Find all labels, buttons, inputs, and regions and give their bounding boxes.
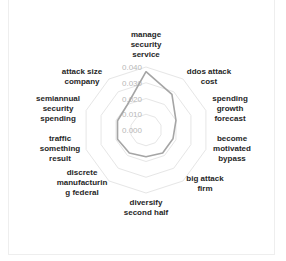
radar-chart: 0.0000.0100.0200.0300.040 managesecurity… (0, 0, 286, 261)
category-label: becomemotivatedbypass (213, 134, 251, 163)
category-label: spendinggrowthforecast (212, 94, 248, 123)
category-label: big attackfirm (186, 174, 224, 193)
category-label: diversifysecond half (124, 198, 169, 217)
grid-ring (101, 83, 191, 178)
category-label: trafficsomethingresult (40, 134, 81, 163)
category-label: attack sizecompany (62, 67, 103, 86)
tick-label: 0.000 (122, 126, 143, 135)
category-label: semiannualsecurityspending (36, 94, 80, 123)
category-label: ddos attackcost (187, 67, 232, 86)
category-label: managesecurityservice (131, 30, 162, 59)
category-label: discretemanufacturing federal (57, 168, 108, 197)
category-labels: managesecurityserviceddos attackcostspen… (36, 30, 251, 217)
tick-label: 0.040 (122, 63, 143, 72)
tick-label: 0.010 (122, 110, 143, 119)
